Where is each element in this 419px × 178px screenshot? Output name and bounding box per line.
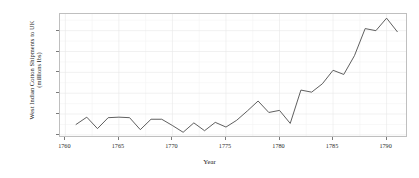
y-axis: 24681012 <box>0 0 59 178</box>
x-tick-label: 1770 <box>165 142 177 149</box>
y-tick-mark <box>56 92 59 93</box>
gridlines-major <box>60 14 407 137</box>
x-tick-label: 1780 <box>272 142 284 149</box>
x-tick-mark <box>386 137 387 140</box>
x-tick-label: 1775 <box>219 142 231 149</box>
y-tick-mark <box>56 113 59 114</box>
x-tick-label: 1765 <box>112 142 124 149</box>
x-axis-title: Year <box>0 158 419 165</box>
x-tick-mark <box>279 137 280 140</box>
x-tick-label: 1785 <box>326 142 338 149</box>
x-tick-mark <box>171 137 172 140</box>
y-tick-mark <box>56 134 59 135</box>
x-tick-label: 1790 <box>379 142 391 149</box>
x-tick-mark <box>64 137 65 140</box>
x-tick-mark <box>225 137 226 140</box>
data-line-series-1 <box>76 18 397 132</box>
y-tick-mark <box>56 30 59 31</box>
plot-area <box>60 14 407 137</box>
x-tick-mark <box>118 137 119 140</box>
chart-figure: West Indian Cotton Shipments to UK (mill… <box>0 0 419 178</box>
x-tick-label: 1760 <box>58 142 70 149</box>
x-tick-mark <box>332 137 333 140</box>
plot-panel <box>59 13 407 137</box>
y-tick-mark <box>56 51 59 52</box>
gridlines-minor <box>60 14 407 137</box>
y-tick-mark <box>56 71 59 72</box>
